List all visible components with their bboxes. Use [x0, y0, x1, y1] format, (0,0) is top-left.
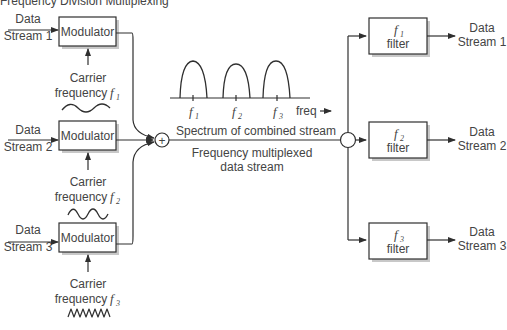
summer-plus-icon: +: [158, 134, 165, 148]
modulator-1-label: Modulator: [61, 25, 114, 39]
modulator-3-output-line: [116, 142, 154, 244]
output-2-line2: Stream 2: [458, 139, 507, 153]
combined-label-line1: Frequency multiplexed: [192, 146, 313, 160]
carrier-1-line1: Carrier: [70, 71, 107, 85]
carrier-1-wave-icon: [62, 104, 110, 112]
carrier-2-line2: frequency: [55, 190, 108, 204]
carrier-3-sub: 3: [115, 299, 120, 308]
combined-label-line2: data stream: [220, 160, 283, 174]
modulator-2-group: Data Stream 2 Modulator Carrier frequenc…: [4, 121, 153, 219]
diagram-title: Frequency Division Multiplexing: [0, 0, 169, 8]
splitter: [341, 36, 367, 240]
output-2-line1: Data: [469, 125, 495, 139]
carrier-2-line1: Carrier: [70, 175, 107, 189]
input-label-1-line1: Data: [15, 12, 41, 26]
filter-1-group: f 1 filter Data Stream 1: [369, 18, 507, 57]
spectrum-caption: Spectrum of combined stream: [176, 124, 336, 138]
carrier-3-line1: Carrier: [70, 277, 107, 291]
carrier-1-sub: 1: [116, 93, 120, 102]
tick-label-f2-sub: 2: [238, 112, 242, 121]
filter-1-label: filter: [387, 37, 410, 51]
modulator-1-group: Data Stream 1 Modulator Carrier frequenc…: [4, 12, 154, 138]
output-3-line2: Stream 3: [458, 239, 507, 253]
carrier-2-sub: 2: [116, 197, 120, 206]
input-label-3-line1: Data: [15, 223, 41, 237]
output-3-line1: Data: [469, 225, 495, 239]
fdm-diagram: Frequency Division Multiplexing Data Str…: [0, 0, 507, 330]
spectrum-bump-3: [263, 61, 290, 98]
spectrum-bump-1: [180, 61, 207, 98]
filter-3-label: filter: [387, 242, 410, 256]
carrier-1-line2: frequency: [55, 86, 108, 100]
spectrum-bump-2: [223, 64, 250, 98]
output-1-line2: Stream 1: [458, 35, 507, 49]
freq-axis-label: freq: [296, 104, 317, 118]
modulator-3-label: Modulator: [61, 231, 114, 245]
carrier-3-wave-icon: [68, 309, 110, 317]
filter-2-label: filter: [387, 141, 410, 155]
tick-label-f3-sub: 3: [278, 112, 283, 121]
modulator-2-label: Modulator: [61, 129, 114, 143]
modulator-1-output-line: [116, 33, 154, 138]
spectrum-plot: f 1 f 2 f 3 freq Spectrum of combined st…: [170, 61, 336, 138]
output-1-line1: Data: [469, 21, 495, 35]
modulator-3-group: Data Stream 3 Modulator Carrier frequenc…: [4, 142, 154, 317]
filter-3-group: f 3 filter Data Stream 3: [369, 223, 507, 262]
carrier-2-wave-icon: [68, 209, 108, 219]
filter-2-group: f 2 filter Data Stream 2: [369, 122, 507, 161]
carrier-3-line2: frequency: [55, 292, 108, 306]
summing-node: +: [155, 133, 169, 148]
input-label-1-line2: Stream 1: [4, 29, 53, 43]
input-label-2-line2: Stream 2: [4, 140, 53, 154]
tick-label-f1-sub: 1: [195, 112, 199, 121]
splitter-circle: [341, 133, 356, 148]
input-label-2-line1: Data: [15, 123, 41, 137]
